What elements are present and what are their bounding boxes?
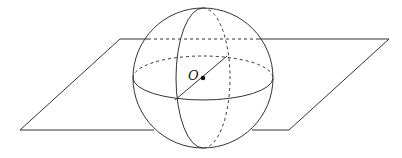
equator-front [133,78,273,100]
equator-back [133,56,273,78]
plane-left-edge [20,39,120,130]
center-label: O [188,68,199,83]
diagram-svg [0,0,402,158]
center-point [201,76,206,81]
meridian-back [203,8,230,148]
sphere-diagram: O [0,0,402,158]
plane-right-edge [289,39,389,130]
